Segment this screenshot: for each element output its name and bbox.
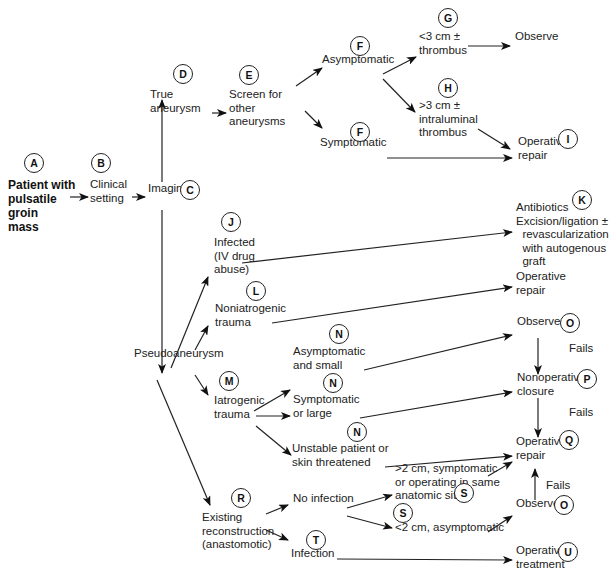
- arrow-connector: [242, 232, 512, 263]
- edge-label-fails: Fails: [569, 406, 593, 418]
- arrow-connector: [157, 380, 210, 505]
- step-badge-k: K: [572, 190, 592, 210]
- step-badge-f: F: [350, 122, 370, 142]
- node-k: Antibiotics Excision/ligation ± revascul…: [516, 201, 609, 269]
- step-badge-f: F: [350, 36, 370, 56]
- arrow-connector: [256, 426, 291, 455]
- step-badge-o: O: [560, 313, 580, 333]
- node-n1: Asymptomatic and small: [293, 345, 365, 372]
- step-badge-i: I: [558, 129, 578, 149]
- step-badge-s: S: [393, 503, 413, 523]
- arrow-connector: [478, 129, 510, 149]
- step-badge-p: P: [577, 369, 597, 389]
- arrow-connector: [347, 495, 392, 508]
- arrow-connector: [305, 111, 322, 128]
- arrow-connector: [296, 68, 322, 86]
- step-badge-m: M: [219, 371, 239, 391]
- step-badge-o: O: [554, 495, 574, 515]
- node-l: Noniatrogenic trauma: [215, 302, 286, 329]
- step-badge-u: U: [558, 542, 578, 562]
- arrow-connector: [195, 375, 208, 395]
- node-s1: >2 cm, symptomatic or operating in same …: [395, 462, 500, 503]
- arrow-connector: [337, 559, 512, 560]
- step-badge-j: J: [221, 212, 241, 232]
- arrow-connector: [360, 392, 512, 418]
- node-p: Nonoperative closure: [517, 371, 585, 398]
- arrow-connector: [364, 335, 512, 370]
- arrow-connector: [383, 79, 415, 112]
- node-pseudo: Pseudoaneurysm: [134, 347, 224, 361]
- step-badge-n: N: [347, 422, 367, 442]
- flowchart-canvas: Patient with pulsatile groin massAClinic…: [0, 0, 615, 580]
- node-h: >3 cm ± intraluminal thrombus: [419, 99, 478, 140]
- node-o1: Observe: [517, 315, 560, 329]
- step-badge-e: E: [239, 65, 259, 85]
- step-badge-d: D: [173, 64, 193, 84]
- node-n3: Unstable patient or skin threatened: [292, 442, 389, 469]
- node-operative1: Operative repair: [516, 270, 566, 297]
- step-badge-r: R: [231, 488, 251, 508]
- node-o2: Observe: [516, 497, 559, 511]
- step-badge-n: N: [323, 373, 343, 393]
- step-badge-b: B: [91, 153, 111, 173]
- node-j: Infected (IV drug abuse): [214, 236, 255, 277]
- step-badge-l: L: [246, 281, 266, 301]
- node-m: Iatrogenic trauma: [214, 394, 265, 421]
- node-n2: Symptomatic or large: [293, 393, 359, 420]
- node-a: Patient with pulsatile groin mass: [8, 178, 75, 234]
- step-badge-a: A: [24, 153, 44, 173]
- edge-label-fails: Fails: [546, 479, 570, 491]
- step-badge-g: G: [438, 8, 458, 28]
- step-badge-n: N: [329, 324, 349, 344]
- edge-label-fails: Fails: [569, 342, 593, 354]
- step-badge-h: H: [438, 78, 458, 98]
- node-s2: <2 cm, asymptomatic: [395, 521, 504, 535]
- node-g: <3 cm ± thrombus: [419, 30, 467, 57]
- arrow-connector: [347, 516, 392, 528]
- node-observe1: Observe: [515, 30, 558, 44]
- arrow-connector: [272, 287, 512, 323]
- node-b: Clinical setting: [90, 178, 127, 205]
- node-noinf: No infection: [293, 492, 354, 506]
- node-d: True aneurysm: [150, 88, 201, 115]
- step-badge-t: T: [306, 530, 326, 550]
- step-badge-c: C: [180, 180, 200, 200]
- node-e: Screen for other aneurysms: [229, 88, 285, 129]
- node-r: Existing reconstruction (anastomotic): [202, 511, 274, 552]
- step-badge-q: Q: [559, 430, 579, 450]
- step-badge-s: S: [454, 483, 474, 503]
